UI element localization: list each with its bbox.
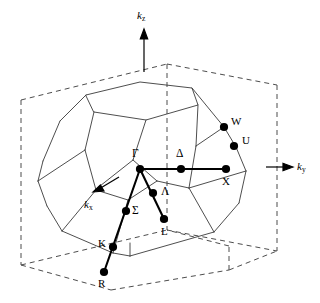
- axis-label-ky-sub: y: [302, 165, 306, 174]
- axis-arrowhead-kz: [140, 29, 147, 39]
- brillouin-zone-drawing: [0, 0, 320, 303]
- polyhedron-edge-left-inner-b: [85, 150, 96, 190]
- cube-edge-bottom-front-right: [229, 251, 277, 270]
- point-sigma[interactable]: [122, 207, 130, 215]
- axis-label-kx-sub: x: [89, 203, 93, 212]
- cube-edge-bottom-front: [111, 270, 229, 290]
- label-gamma: Γ: [132, 148, 139, 160]
- label-delta: Δ: [176, 148, 183, 160]
- polyhedron-edge-left-inner-a: [38, 150, 85, 181]
- axis-arrowhead-ky: [283, 163, 293, 170]
- label-k: K: [98, 238, 106, 249]
- axis-label-kx: kx: [84, 199, 93, 210]
- polyhedron-edge-right-inner-d: [189, 171, 246, 188]
- polyhedron-edge-left-bottom: [47, 206, 62, 231]
- point-k[interactable]: [109, 243, 117, 251]
- label-u: U: [242, 135, 250, 146]
- axis-label-kz-sub: z: [142, 14, 145, 23]
- axis-label-kz: kz: [137, 10, 145, 21]
- polyhedron-edge-right-mid: [239, 171, 246, 203]
- point-gamma[interactable]: [136, 165, 144, 173]
- polyhedron-edge-u-down: [236, 147, 246, 171]
- point-x[interactable]: [222, 165, 230, 173]
- point-u[interactable]: [230, 142, 238, 150]
- high-symmetry-points: [100, 123, 238, 276]
- polyhedron-edge-bottom-right: [130, 232, 214, 256]
- polyhedron-edge-bottom-mid: [113, 253, 130, 256]
- point-r[interactable]: [100, 268, 108, 276]
- polyhedron-edge-right-inner-a: [196, 105, 198, 146]
- cube-edge-front-top: [21, 64, 167, 100]
- point-w[interactable]: [220, 123, 228, 131]
- axis-label-ky: ky: [297, 161, 306, 172]
- polyhedron-edge-left-lower: [38, 181, 47, 206]
- polyhedron-edge-right-inner-c: [189, 146, 196, 188]
- polyhedron-edge-left-inner-v: [85, 112, 94, 150]
- label-w: W: [231, 116, 241, 127]
- polyhedron-face-top: [86, 82, 198, 120]
- label-l: L: [161, 226, 168, 237]
- label-lambda: Λ: [161, 186, 169, 198]
- polyhedron-edge-right-inner-e: [189, 188, 214, 232]
- polyhedron-edge-upper-left: [60, 95, 86, 121]
- point-lambda[interactable]: [149, 189, 157, 197]
- point-delta[interactable]: [177, 165, 185, 173]
- polyhedron-edge-right-lower: [214, 203, 239, 232]
- label-r: R: [98, 278, 105, 289]
- polyhedron-edge-front-gamma: [100, 160, 133, 186]
- label-x: X: [222, 176, 230, 187]
- cube-edge-front-bottom: [21, 230, 167, 265]
- polyhedron-edge-left-upper: [43, 121, 60, 161]
- brillouin-zone-figure: Γ Δ X W U Λ L Σ K R kz ky kx: [0, 0, 320, 303]
- polyhedron-edge-right-inner-b: [196, 127, 224, 146]
- symmetry-line-gamma-r: [104, 169, 140, 272]
- label-sigma: Σ: [132, 205, 139, 217]
- cube-edge-inner-bottom: [167, 230, 229, 246]
- cube-edge-top-right: [167, 64, 277, 85]
- point-l[interactable]: [160, 215, 168, 223]
- dashed-cube: [21, 64, 277, 290]
